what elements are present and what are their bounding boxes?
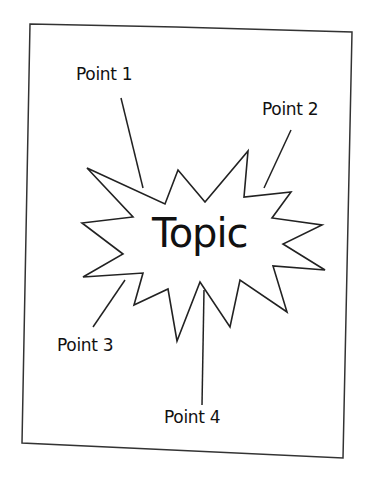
topic-label: Topic (152, 210, 248, 256)
point-3-label: Point 3 (57, 335, 113, 355)
point-4-label: Point 4 (164, 407, 220, 427)
topic-starburst-diagram: Point 1 Point 2 Point 3 Point 4 Topic (0, 0, 385, 497)
point-2-label: Point 2 (262, 99, 318, 119)
point-1-label: Point 1 (76, 64, 132, 84)
